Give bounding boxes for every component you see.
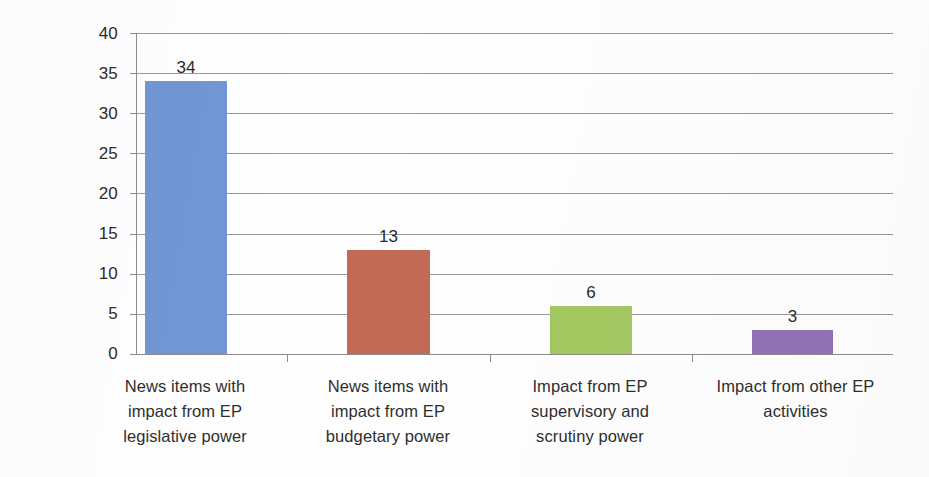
x-category-label-3-line-1: activities: [688, 399, 903, 424]
bar-supervisory-scrutiny-power[interactable]: [550, 306, 632, 354]
y-tick-label-25: 25: [58, 145, 118, 162]
gridline-baseline-0: [137, 354, 893, 355]
bar-value-label-3: 3: [752, 308, 833, 325]
x-category-label-1-line-2: budgetary power: [288, 424, 488, 449]
bar-value-label-1: 13: [347, 228, 430, 245]
bar-value-label-2: 6: [550, 284, 632, 301]
y-tick-label-10: 10: [58, 265, 118, 282]
x-tick-mark-2: [490, 355, 491, 362]
bar-other-ep-activities[interactable]: [752, 330, 833, 354]
plot-area: 34 13 6 3: [137, 33, 893, 354]
x-category-label-2-line-0: Impact from EP: [490, 374, 690, 399]
y-tick-label-35: 35: [58, 65, 118, 82]
y-tick-label-5: 5: [58, 305, 118, 322]
x-category-label-3: Impact from other EP activities: [688, 374, 903, 424]
bar-news-items-legislative-power[interactable]: [145, 81, 227, 354]
y-tick-label-30: 30: [58, 105, 118, 122]
gridline-30: [137, 113, 893, 114]
x-tick-mark-3: [692, 355, 693, 362]
y-tick-label-40: 40: [58, 25, 118, 42]
gridline-25: [137, 153, 893, 154]
gridline-40: [137, 33, 893, 34]
gridline-15: [137, 234, 893, 235]
y-tick-label-20: 20: [58, 185, 118, 202]
y-tick-label-0: 0: [58, 345, 118, 362]
x-category-label-3-line-0: Impact from other EP: [688, 374, 903, 399]
x-category-label-0-line-0: News items with: [85, 374, 285, 399]
x-category-label-1-line-1: impact from EP: [288, 399, 488, 424]
gridline-10: [137, 274, 893, 275]
x-category-label-2: Impact from EP supervisory and scrutiny …: [490, 374, 690, 449]
gridline-20: [137, 193, 893, 194]
x-category-label-2-line-1: supervisory and: [490, 399, 690, 424]
x-category-label-0-line-2: legislative power: [85, 424, 285, 449]
x-category-label-1-line-0: News items with: [288, 374, 488, 399]
x-tick-mark-1: [287, 355, 288, 362]
bar-chart: 40 35 30 25 20 15 10 5 0 34 13 6 3: [0, 0, 929, 477]
x-axis-category-labels: News items with impact from EP legislati…: [0, 374, 929, 474]
x-category-label-2-line-2: scrutiny power: [490, 424, 690, 449]
x-category-label-0: News items with impact from EP legislati…: [85, 374, 285, 449]
gridline-35: [137, 73, 893, 74]
x-category-label-0-line-1: impact from EP: [85, 399, 285, 424]
bar-value-label-0: 34: [145, 59, 227, 76]
y-tick-label-15: 15: [58, 225, 118, 242]
bar-news-items-budgetary-power[interactable]: [347, 250, 430, 354]
x-category-label-1: News items with impact from EP budgetary…: [288, 374, 488, 449]
